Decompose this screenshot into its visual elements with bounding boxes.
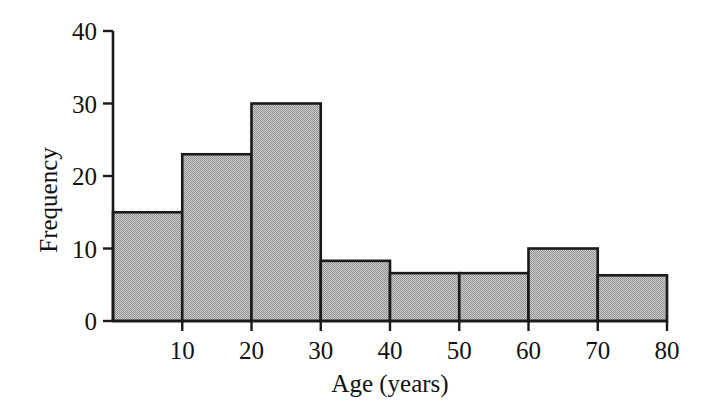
bar-70-80 bbox=[598, 275, 667, 321]
x-tick-label-30: 30 bbox=[308, 337, 333, 364]
y-tick-label-20: 20 bbox=[72, 163, 97, 190]
x-tick-label-20: 20 bbox=[239, 337, 264, 364]
bar-50-60 bbox=[459, 273, 528, 321]
y-tick-label-30: 30 bbox=[72, 91, 97, 118]
bar-20-30 bbox=[252, 104, 321, 322]
y-tick-label-40: 40 bbox=[72, 18, 97, 45]
x-tick-label-70: 70 bbox=[585, 337, 610, 364]
y-tick-label-0: 0 bbox=[85, 308, 98, 335]
x-tick-label-60: 60 bbox=[516, 337, 541, 364]
bar-10-20 bbox=[182, 154, 251, 321]
x-tick-label-50: 50 bbox=[447, 337, 472, 364]
bar-30-40 bbox=[321, 261, 390, 321]
bar-60-70 bbox=[529, 249, 598, 322]
bar-0-10 bbox=[113, 212, 182, 321]
y-tick-label-10: 10 bbox=[72, 236, 97, 263]
x-tick-label-10: 10 bbox=[170, 337, 195, 364]
histogram-plot: 0 10 20 30 40 10 20 30 40 50 60 70 80 bbox=[0, 0, 714, 413]
y-axis-title: Frequency bbox=[35, 147, 62, 253]
histogram-figure: 0 10 20 30 40 10 20 30 40 50 60 70 80 bbox=[0, 0, 714, 413]
x-tick-label-80: 80 bbox=[655, 337, 680, 364]
x-tick-label-40: 40 bbox=[378, 337, 403, 364]
bar-40-50 bbox=[390, 273, 459, 321]
x-axis-title: Age (years) bbox=[331, 370, 448, 398]
